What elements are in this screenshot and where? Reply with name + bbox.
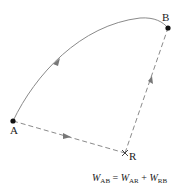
eq-term1-sub: AR <box>129 177 139 185</box>
point-A-label: A <box>10 125 18 136</box>
work-equation: WAB = WAR + WRB <box>92 172 167 185</box>
curved-path-A-to-B <box>13 18 168 121</box>
diagram-svg <box>0 0 181 191</box>
dashed-path-R-to-B <box>125 28 168 153</box>
point-R-cross-icon <box>122 150 128 156</box>
arrow-icon <box>63 133 71 139</box>
eq-term1: W <box>121 172 129 183</box>
point-B-marker <box>165 25 170 30</box>
point-A-marker <box>10 118 15 123</box>
eq-sign: = <box>110 172 121 183</box>
point-R-label: R <box>129 151 136 162</box>
work-path-diagram: A B R WAB = WAR + WRB <box>0 0 181 191</box>
eq-term2-sub: RB <box>158 177 167 185</box>
eq-term2: W <box>149 172 157 183</box>
point-B-label: B <box>162 12 169 23</box>
eq-plus: + <box>139 172 150 183</box>
eq-lhs-sub: AB <box>100 177 110 185</box>
